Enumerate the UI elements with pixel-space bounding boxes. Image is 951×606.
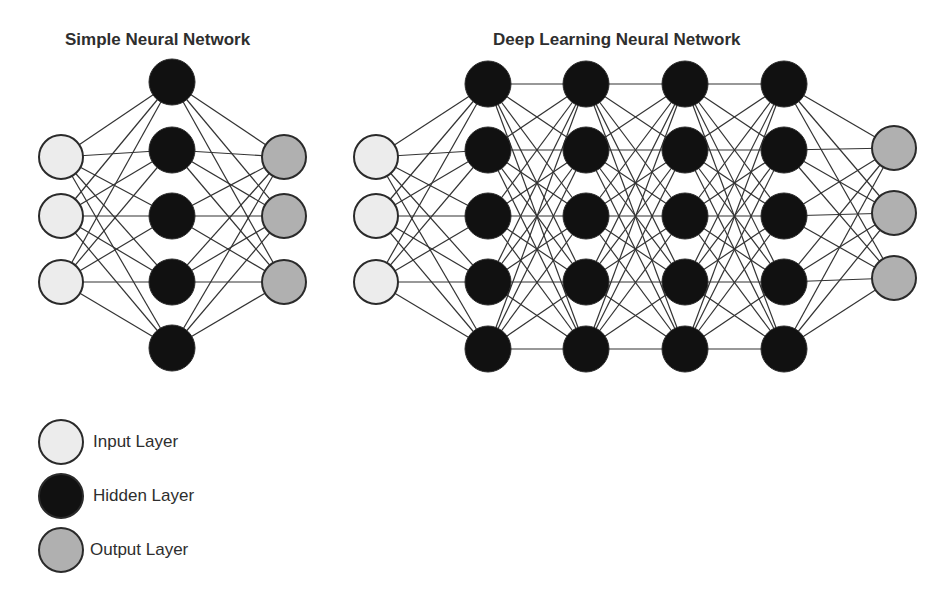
deep-output-node: [872, 256, 916, 300]
legend-output-swatch: [39, 528, 83, 572]
deep-hidden-node: [563, 127, 609, 173]
legend-label-input: Input Layer: [93, 432, 178, 452]
deep-hidden-node: [563, 259, 609, 305]
deep-hidden-node: [563, 326, 609, 372]
simple-input-node: [39, 135, 83, 179]
deep-input-node: [354, 135, 398, 179]
legend-label-hidden: Hidden Layer: [93, 486, 194, 506]
deep-hidden-node: [465, 61, 511, 107]
deep-input-node: [354, 260, 398, 304]
deep-hidden-node: [465, 127, 511, 173]
simple-output-node: [262, 135, 306, 179]
deep-hidden-node: [563, 193, 609, 239]
deep-hidden-node: [465, 326, 511, 372]
simple-hidden-node: [149, 193, 195, 239]
deep-output-node: [872, 191, 916, 235]
deep-output-node: [872, 126, 916, 170]
simple-network-nodes: [39, 59, 306, 371]
deep-hidden-node: [761, 61, 807, 107]
deep-hidden-node: [662, 193, 708, 239]
simple-hidden-node: [149, 325, 195, 371]
legend-swatches: [39, 420, 83, 572]
simple-network-title: Simple Neural Network: [65, 30, 250, 50]
deep-hidden-node: [662, 259, 708, 305]
deep-hidden-node: [662, 61, 708, 107]
legend-hidden-swatch: [39, 474, 83, 518]
simple-input-node: [39, 194, 83, 238]
deep-hidden-node: [662, 127, 708, 173]
deep-hidden-node: [761, 326, 807, 372]
legend-input-swatch: [39, 420, 83, 464]
deep-hidden-node: [761, 127, 807, 173]
deep-network-title: Deep Learning Neural Network: [493, 30, 741, 50]
simple-input-node: [39, 260, 83, 304]
deep-hidden-node: [761, 193, 807, 239]
deep-hidden-node: [563, 61, 609, 107]
simple-output-node: [262, 194, 306, 238]
simple-hidden-node: [149, 259, 195, 305]
simple-hidden-node: [149, 127, 195, 173]
deep-hidden-node: [761, 259, 807, 305]
legend-label-output: Output Layer: [90, 540, 188, 560]
deep-network-connections: [376, 84, 894, 349]
deep-input-node: [354, 194, 398, 238]
simple-hidden-node: [149, 59, 195, 105]
neural-network-diagram: [0, 0, 951, 606]
deep-hidden-node: [465, 259, 511, 305]
deep-hidden-node: [662, 326, 708, 372]
deep-hidden-node: [465, 193, 511, 239]
simple-output-node: [262, 260, 306, 304]
